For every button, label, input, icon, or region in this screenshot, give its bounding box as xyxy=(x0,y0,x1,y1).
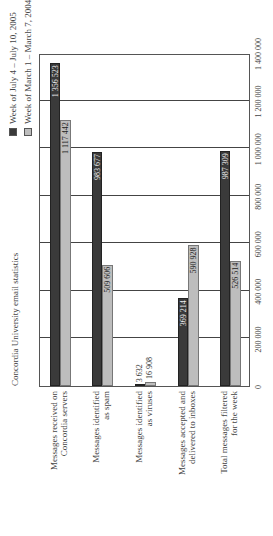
bar: 526 514 xyxy=(230,261,241,386)
bar: 1 117 442 xyxy=(60,120,71,386)
gridline xyxy=(40,290,249,291)
bar: 509 606 xyxy=(102,265,113,386)
legend-swatch-dark xyxy=(9,128,17,136)
legend-label: Week of July 4 – July 10, 2005 xyxy=(8,12,18,124)
x-tick-label: 400 000 xyxy=(254,279,263,305)
bar-value-label: 369 214 xyxy=(178,300,187,326)
bar-value-label: 509 606 xyxy=(103,267,112,293)
legend-swatch-light xyxy=(24,128,32,136)
bar-value-label: 987 309 xyxy=(220,153,229,179)
bar: 987 309 xyxy=(220,151,231,386)
gridline xyxy=(40,242,249,243)
bar xyxy=(135,384,146,386)
x-tick-label: 0 xyxy=(254,385,263,389)
category-label: Total messages filtered for the week xyxy=(219,391,239,474)
x-tick-label: 1 200 000 xyxy=(254,86,263,118)
legend-label: Week of March 1 – March 7, 2004 xyxy=(23,0,33,124)
chart-title: Concordia University email statistics xyxy=(10,253,20,386)
bar: 983 677 xyxy=(92,152,103,386)
gridline xyxy=(40,147,249,148)
category-label: Messages identified as viruses xyxy=(134,391,154,463)
bar: 369 214 xyxy=(178,298,189,386)
x-tick-label: 600 000 xyxy=(254,231,263,257)
legend-item-2005: Week of July 4 – July 10, 2005 xyxy=(8,0,18,136)
x-tick-label: 200 000 xyxy=(254,326,263,352)
gridline xyxy=(40,337,249,338)
x-tick-label: 800 000 xyxy=(254,184,263,210)
plot-area: 1 356 5231 117 442983 677509 6063 63216 … xyxy=(39,54,250,387)
gridline xyxy=(40,195,249,196)
category-label: Messages received on Concordia servers xyxy=(49,391,69,470)
bar: 1 356 523 xyxy=(50,63,61,386)
x-tick-label: 1 400 000 xyxy=(254,38,263,70)
bar-value-label: 1 117 442 xyxy=(61,122,70,154)
gridline xyxy=(40,100,249,101)
x-tick-label: 1 000 000 xyxy=(254,133,263,165)
legend-item-2004: Week of March 1 – March 7, 2004 xyxy=(23,0,33,136)
bar-value-label: 3 632 xyxy=(135,364,144,382)
bar xyxy=(145,382,156,386)
chart: Concordia University email statistics We… xyxy=(0,0,273,536)
bar-value-label: 1 356 523 xyxy=(50,65,59,97)
category-label: Messages identified as spam xyxy=(91,391,111,463)
bar-value-label: 983 677 xyxy=(92,154,101,180)
category-label: Messages accepted and delivered to inbox… xyxy=(177,391,197,475)
bar-value-label: 590 928 xyxy=(189,247,198,273)
bar-value-label: 526 514 xyxy=(231,263,240,289)
bar-value-label: 16 908 xyxy=(145,357,154,379)
bar: 590 928 xyxy=(188,245,199,386)
legend: Week of July 4 – July 10, 2005 Week of M… xyxy=(8,0,33,136)
